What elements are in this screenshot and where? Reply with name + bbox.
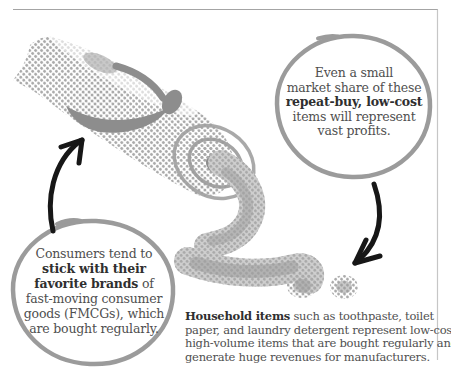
paste-dot-core <box>336 281 352 294</box>
callout-line: goods (FMCGs), which <box>18 306 170 321</box>
callout-line: Consumers tend to <box>18 246 170 261</box>
arrow-to-tube <box>50 140 82 231</box>
callout-line: are bought regularly. <box>18 321 170 336</box>
callout-line: Even a small <box>283 66 425 81</box>
callout-line: items will represent <box>283 110 425 125</box>
caption-lead-bold: Household items <box>185 309 290 323</box>
callout-line: favorite brands of <box>18 276 170 291</box>
callout-vast-profits: Even a small market share of these repea… <box>283 66 425 139</box>
arrowhead-barb <box>79 140 82 163</box>
caption-line: high-volume items that are bought regula… <box>185 337 437 351</box>
caption-line: such as toothpaste, toilet <box>290 309 434 323</box>
callout-line-bold: favorite brands <box>34 276 138 291</box>
caption-line: generate huge revenues for manufacturers… <box>185 351 437 365</box>
caption-household-items: Household items such as toothpaste, toil… <box>185 310 437 364</box>
callout-favorite-brands: Consumers tend to stick with their favor… <box>18 246 170 336</box>
caption-line: paper, and laundry detergent represent l… <box>185 324 437 338</box>
callout-line: fast-moving consumer <box>18 291 170 306</box>
callout-line-bold: stick with their <box>18 261 170 276</box>
caption-line: Household items such as toothpaste, toil… <box>185 310 437 324</box>
callout-line: market share of these <box>283 81 425 96</box>
callout-line: of <box>138 276 154 291</box>
arrow-to-paste-dot <box>355 184 380 263</box>
callout-line: vast profits. <box>283 124 425 139</box>
paste-blob-core <box>293 279 311 293</box>
callout-line-bold: repeat-buy, low-cost <box>283 95 425 110</box>
infographic-page: Even a small market share of these repea… <box>0 0 451 373</box>
circle-stroke-overlap <box>318 36 338 38</box>
